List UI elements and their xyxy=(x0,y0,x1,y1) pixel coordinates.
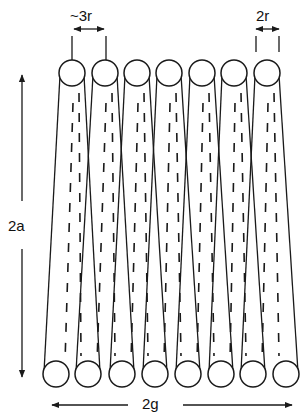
top-wire-cross-section xyxy=(189,60,215,86)
hidden-strand xyxy=(131,103,138,362)
bottom-wire-cross-section xyxy=(142,361,168,387)
wire-diameter-label: 2r xyxy=(256,8,269,23)
helical-coil-diagram xyxy=(0,0,303,418)
front-strand xyxy=(241,75,255,372)
bottom-wire-cross-section xyxy=(43,361,69,387)
top-wire-cross-section xyxy=(221,60,247,86)
bottom-wire-cross-section xyxy=(208,361,234,387)
hidden-strand xyxy=(274,93,279,356)
top-wire-cross-section xyxy=(156,60,182,86)
hidden-strand xyxy=(164,103,170,362)
top-wire-cross-section xyxy=(59,60,85,86)
bottom-wire-cross-section xyxy=(109,361,135,387)
bottom-wire-cross-section xyxy=(240,361,266,387)
bottom-wire-cross-section xyxy=(175,361,201,387)
hidden-strand xyxy=(197,103,203,362)
hidden-strand xyxy=(97,103,106,362)
top-wire-cross-section xyxy=(254,60,280,86)
hidden-strand xyxy=(65,103,73,362)
coil-width-label: 2g xyxy=(142,396,159,411)
front-strand xyxy=(44,75,60,372)
front-strand xyxy=(176,75,190,372)
pitch-label: ~3r xyxy=(70,8,92,23)
wire-diameter-dimension xyxy=(256,29,279,52)
top-wire-cross-section xyxy=(92,60,118,86)
coil-wires xyxy=(44,75,298,372)
front-strand xyxy=(209,75,222,372)
pitch-dimension xyxy=(72,29,106,60)
bottom-wire-cross-section xyxy=(273,361,299,387)
top-wire-cross-section xyxy=(124,60,150,86)
bottom-wire-cross-section xyxy=(75,361,101,387)
hidden-strand xyxy=(230,103,235,362)
hidden-strand xyxy=(262,103,268,362)
coil-height-label: 2a xyxy=(8,218,25,233)
front-strand xyxy=(279,75,298,372)
